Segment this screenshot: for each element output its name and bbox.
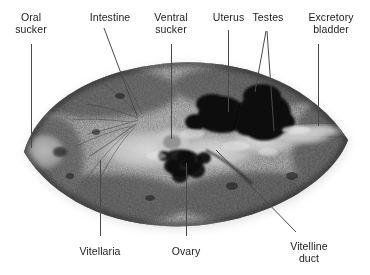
specimen-photograph [0,0,370,275]
labeled-micrograph-figure: Oral sucker Intestine Ventral sucker Ute… [0,0,370,275]
label-vitelline-duct: Vitelline duct [276,241,342,264]
label-oral-sucker: Oral sucker [0,12,62,35]
label-vitellaria: Vitellaria [67,246,133,258]
label-ovary: Ovary [155,246,217,258]
label-excretory-bladder: Excretory bladder [295,12,367,35]
label-ventral-sucker: Ventral sucker [140,12,202,35]
specimen-svg [0,0,370,275]
label-testes: Testes [242,12,294,24]
label-intestine: Intestine [79,12,141,24]
